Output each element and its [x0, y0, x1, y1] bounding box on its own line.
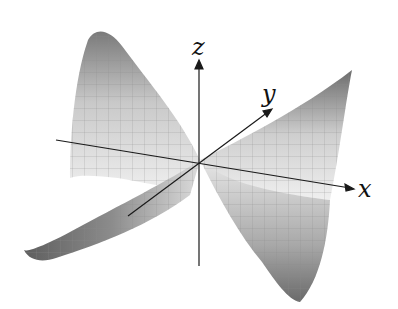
y-axis-arrowhead	[263, 109, 272, 117]
z-axis-arrowhead	[195, 60, 203, 69]
x-axis-arrowhead	[345, 184, 354, 191]
z-axis-label: z	[191, 33, 205, 61]
surface-left-flap	[70, 31, 200, 190]
y-axis-label: y	[261, 80, 276, 108]
saddle-diagram: z y x	[0, 0, 398, 309]
x-axis-label: x	[358, 175, 372, 203]
